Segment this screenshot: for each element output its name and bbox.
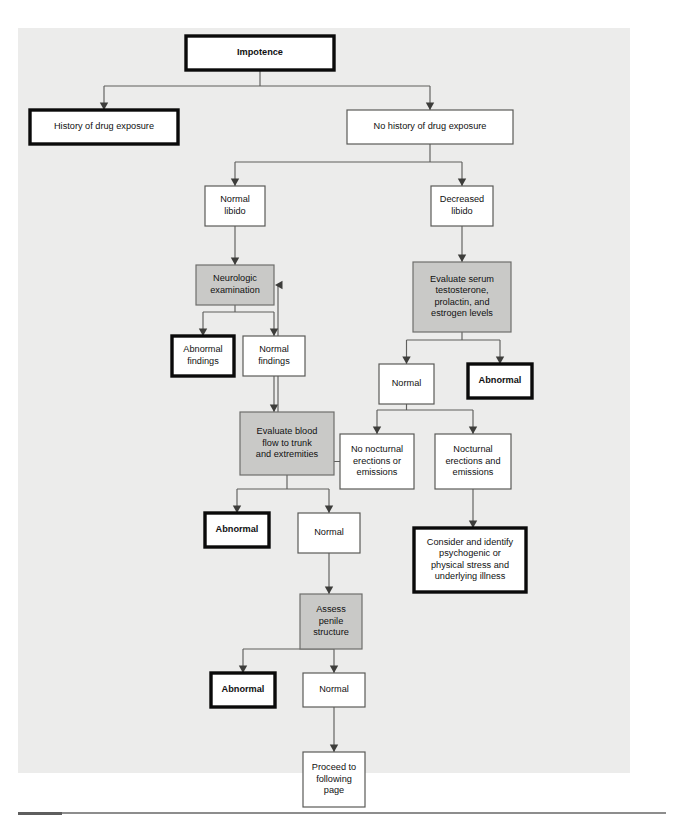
flow-node-normal_libido[interactable]: Normallibido: [205, 186, 265, 226]
node-label-eval_serum: Evaluate serumtestosterone,prolactin, an…: [430, 275, 494, 319]
footer-rule-cap: [18, 812, 62, 815]
arrowhead-icon: [270, 329, 278, 337]
flow-node-hx_drug[interactable]: History of drug exposure: [30, 110, 178, 144]
flow-node-neuro_exam[interactable]: Neurologicexamination: [196, 265, 274, 305]
arrowhead-icon: [325, 506, 333, 514]
arrowhead-icon: [330, 745, 338, 753]
flow-node-serum_abnormal[interactable]: Abnormal: [468, 364, 532, 398]
arrowhead-icon: [402, 357, 410, 365]
flow-node-no_nocturnal[interactable]: No nocturnalerections oremissions: [340, 434, 414, 489]
flow-node-yes_nocturnal[interactable]: Nocturnalerections andemissions: [435, 434, 511, 489]
node-label-normal_libido: Normallibido: [220, 195, 250, 216]
flow-node-flow_abnormal[interactable]: Abnormal: [205, 513, 269, 547]
arrowhead-icon: [426, 103, 434, 111]
page-canvas: ImpotenceHistory of drug exposureNo hist…: [0, 0, 683, 826]
flow-node-eval_serum[interactable]: Evaluate serumtestosterone,prolactin, an…: [413, 262, 511, 332]
node-label-eval_blood: Evaluate bloodflow to trunkand extremiti…: [256, 427, 319, 459]
node-label-neuro_exam: Neurologicexamination: [210, 274, 260, 295]
flow-node-serum_normal[interactable]: Normal: [379, 364, 434, 404]
node-label-yes_nocturnal: Nocturnalerections andemissions: [445, 445, 500, 477]
arrowhead-icon: [270, 405, 278, 413]
flow-node-decreased_libido[interactable]: Decreasedlibido: [431, 186, 493, 226]
node-label-flow_abnormal: Abnormal: [216, 524, 259, 534]
node-label-no_hx_drug: No history of drug exposure: [374, 121, 487, 131]
flow-node-pen_normal[interactable]: Normal: [303, 673, 365, 707]
arrowhead-icon: [231, 258, 239, 266]
flow-node-pen_abnormal[interactable]: Abnormal: [211, 673, 275, 707]
flow-node-eval_blood[interactable]: Evaluate bloodflow to trunkand extremiti…: [240, 412, 334, 475]
arrowhead-icon: [458, 179, 466, 187]
flowchart-diagram: ImpotenceHistory of drug exposureNo hist…: [0, 0, 683, 826]
arrowhead-icon: [330, 666, 338, 674]
node-label-flow_normal: Normal: [314, 527, 344, 537]
node-label-impotence: Impotence: [237, 47, 283, 57]
arrowhead-icon: [275, 281, 283, 289]
node-label-pen_normal: Normal: [319, 684, 349, 694]
node-label-serum_normal: Normal: [392, 378, 422, 388]
flow-node-proceed[interactable]: Proceed tofollowingpage: [303, 752, 365, 807]
arrowhead-icon: [469, 427, 477, 435]
node-label-nrm_findings: Normalfindings: [258, 345, 290, 366]
footer-rule: [18, 812, 666, 814]
arrowhead-icon: [325, 587, 333, 595]
nodes-layer: ImpotenceHistory of drug exposureNo hist…: [30, 36, 532, 807]
flow-node-abn_findings[interactable]: Abnormalfindings: [172, 336, 234, 376]
flow-node-assess_penile[interactable]: Assesspenilestructure: [300, 594, 362, 649]
arrowhead-icon: [231, 179, 239, 187]
arrowhead-icon: [373, 427, 381, 435]
node-label-serum_abnormal: Abnormal: [479, 375, 522, 385]
edges-layer: [100, 70, 504, 752]
flow-node-consider[interactable]: Consider and identifypsychogenic orphysi…: [414, 528, 526, 592]
arrowhead-icon: [458, 255, 466, 263]
node-label-hx_drug: History of drug exposure: [54, 121, 154, 131]
node-label-no_nocturnal: No nocturnalerections oremissions: [351, 445, 403, 477]
flow-node-impotence[interactable]: Impotence: [186, 36, 334, 70]
node-label-consider: Consider and identifypsychogenic orphysi…: [427, 538, 514, 582]
flow-node-nrm_findings[interactable]: Normalfindings: [243, 336, 305, 376]
flow-node-flow_normal[interactable]: Normal: [298, 513, 360, 553]
node-label-pen_abnormal: Abnormal: [222, 684, 265, 694]
flow-node-no_hx_drug[interactable]: No history of drug exposure: [347, 110, 513, 144]
node-label-abn_findings: Abnormalfindings: [183, 345, 222, 366]
